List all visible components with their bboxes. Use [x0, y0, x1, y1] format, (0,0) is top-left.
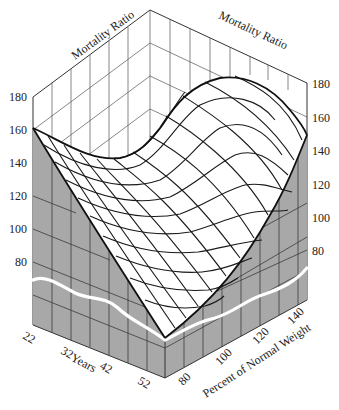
svg-text:140: 140 [312, 144, 330, 158]
svg-text:42: 42 [98, 358, 115, 376]
svg-text:52: 52 [136, 373, 153, 391]
svg-text:22: 22 [21, 328, 38, 346]
svg-text:120: 120 [9, 189, 27, 203]
svg-text:100: 100 [312, 211, 330, 225]
svg-text:80: 80 [312, 244, 324, 258]
svg-text:140: 140 [9, 156, 27, 170]
svg-text:80: 80 [175, 370, 193, 388]
years-axis-title: Years [69, 350, 100, 375]
z-axis-title-left: Mortality Ratio [69, 7, 137, 62]
right-z-ticks: 180 160 140 120 100 80 [312, 77, 330, 258]
svg-text:180: 180 [312, 77, 330, 91]
svg-text:180: 180 [9, 90, 27, 104]
svg-text:120: 120 [312, 178, 330, 192]
svg-text:80: 80 [15, 255, 27, 269]
z-axis-title-right: Mortality Ratio [217, 8, 290, 52]
surface-plot-svg: 180 160 140 120 100 80 180 160 140 120 1… [0, 0, 339, 410]
svg-text:160: 160 [9, 123, 27, 137]
left-z-ticks: 180 160 140 120 100 80 [9, 90, 27, 269]
svg-text:160: 160 [312, 111, 330, 125]
svg-text:100: 100 [9, 222, 27, 236]
surface-chart: 180 160 140 120 100 80 180 160 140 120 1… [0, 0, 339, 410]
